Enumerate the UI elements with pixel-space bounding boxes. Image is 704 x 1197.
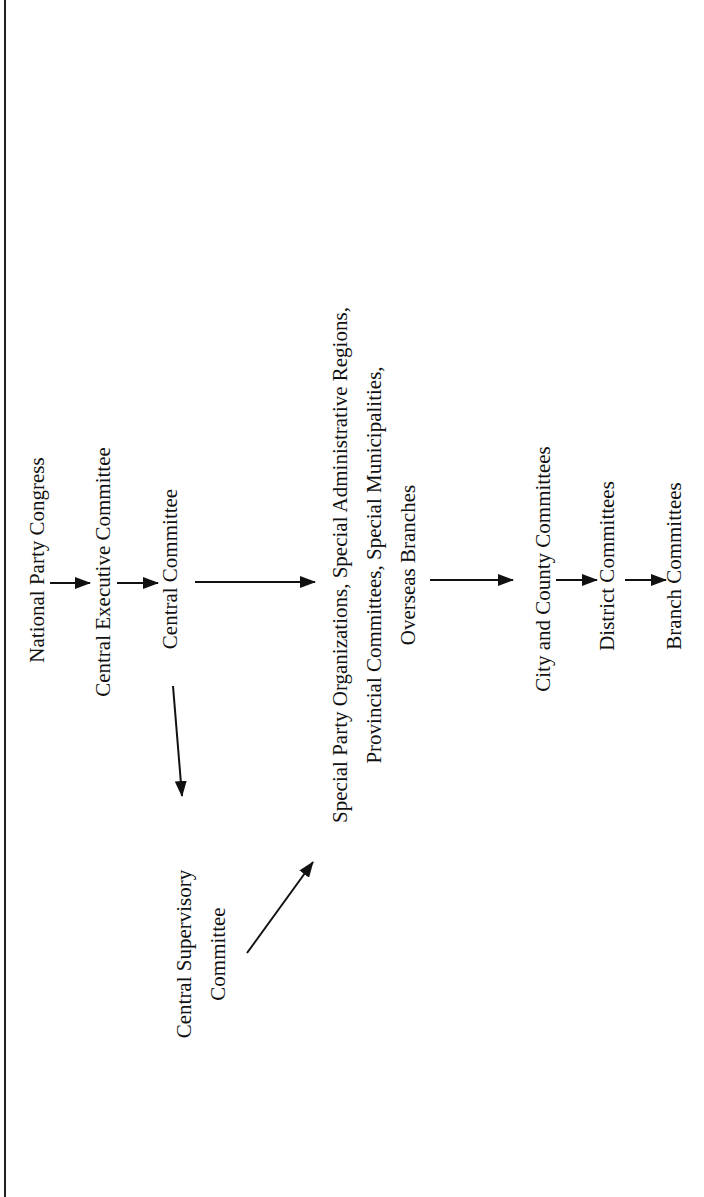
arrow-cc-to-csc	[173, 686, 182, 796]
arrows-layer	[0, 0, 704, 1197]
arrow-csc-to-spo	[247, 862, 313, 953]
